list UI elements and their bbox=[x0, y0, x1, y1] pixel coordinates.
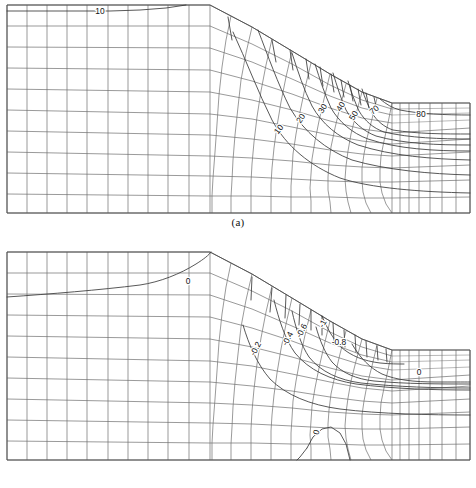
figure-container: 10 10 20 30 40 50 70 80 (a) bbox=[0, 0, 476, 488]
contour-label-b-3: -0.6 bbox=[294, 322, 310, 340]
contour-m02-b bbox=[243, 325, 470, 415]
contour-label-a-6: 70 bbox=[367, 103, 381, 117]
contour-face-fragment-1-b bbox=[251, 277, 252, 300]
contour-0-upper-b bbox=[7, 252, 211, 297]
panel-b: 0 -0.2 -0.4 -0.6 -1 -0.8 0 0 (b) bbox=[0, 240, 476, 488]
contour-face-fragment-11-b bbox=[377, 346, 378, 360]
contour-face-fragment-3-b bbox=[285, 295, 286, 318]
contour-face-fragment-2-a bbox=[272, 40, 276, 62]
panel-a-caption: (a) bbox=[0, 216, 476, 228]
panel-b-plot: 0 -0.2 -0.4 -0.6 -1 -0.8 0 0 bbox=[0, 240, 476, 488]
contour-label-b-6: 0 bbox=[417, 367, 422, 377]
panel-a: 10 10 20 30 40 50 70 80 (a) bbox=[0, 0, 476, 240]
contour-label-b-1: -0.2 bbox=[248, 340, 264, 358]
contour-label-a-0: 10 bbox=[95, 6, 105, 16]
panel-a-plot: 10 10 20 30 40 50 70 80 bbox=[0, 0, 476, 216]
mesh-left-block-a bbox=[7, 5, 210, 213]
contour-label-a-5: 50 bbox=[347, 109, 361, 122]
contour-face-fragment-12-b bbox=[386, 349, 387, 362]
contour-face-fragment-8-a bbox=[350, 85, 353, 101]
contour-label-b-5: -0.8 bbox=[332, 337, 347, 347]
mesh-slope-block-b bbox=[210, 252, 392, 460]
contour-label-b-7: 0 bbox=[311, 428, 322, 436]
contour-face-fragment-6-a bbox=[331, 74, 334, 92]
contour-label-a-2: 20 bbox=[294, 111, 308, 125]
mesh-left-block-b bbox=[7, 252, 210, 460]
contour-label-b-2: -0.4 bbox=[280, 330, 296, 348]
contours-a bbox=[7, 5, 470, 193]
contour-face-fragment-10-b bbox=[366, 341, 367, 357]
mesh-right-block-b bbox=[392, 350, 470, 460]
contour-0-loop-tail-b bbox=[297, 448, 307, 460]
contour-face-fragment-4-a bbox=[306, 59, 309, 79]
contour-label-b-0: 0 bbox=[186, 276, 191, 286]
mesh-slope-block-a bbox=[210, 5, 392, 213]
contour-face-fragment-7-a bbox=[341, 80, 344, 97]
contour-label-a-7: 80 bbox=[416, 109, 426, 119]
contour-labels-a: 10 10 20 30 40 50 70 80 bbox=[95, 6, 426, 136]
